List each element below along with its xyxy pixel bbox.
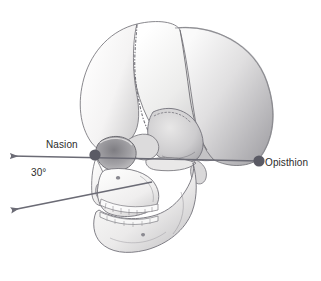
- opisthion-label: Opisthion: [265, 157, 308, 168]
- frontal-bone: [80, 24, 138, 152]
- nasion-point: [89, 149, 100, 160]
- opisthion-point: [253, 155, 264, 166]
- angle-label: 30°: [31, 167, 46, 178]
- mental-foramen: [141, 233, 145, 236]
- skull-angle-figure: Nasion 30° Opisthion: [0, 0, 321, 281]
- infraorbital-foramen: [116, 176, 120, 180]
- nasion-label: Nasion: [46, 139, 78, 150]
